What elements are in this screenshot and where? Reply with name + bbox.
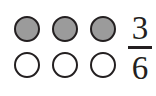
fraction-denominator: 6 (132, 52, 149, 84)
fraction-bar (128, 46, 152, 49)
circle-shaded-2 (52, 16, 78, 42)
circle-unshaded-1 (14, 52, 40, 78)
circle-shaded-3 (90, 16, 116, 42)
circle-unshaded-2 (52, 52, 78, 78)
fraction-numerator: 3 (132, 12, 149, 44)
circle-unshaded-3 (90, 52, 116, 78)
fraction-circles-figure: 3 6 (0, 0, 156, 96)
circle-shaded-1 (14, 16, 40, 42)
fraction-label: 3 6 (126, 8, 154, 88)
